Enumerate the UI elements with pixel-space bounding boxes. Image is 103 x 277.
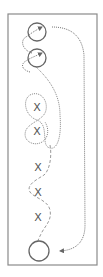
x-marker-3: X [34,161,42,174]
x-marker-1: X [33,101,41,114]
weave-path-upper [25,67,60,148]
x-marker-4: X [34,186,42,199]
drill-diagram: X X X X X [0,0,103,277]
end-circle [29,241,49,261]
x-marker-5: X [34,211,42,224]
loop-arrow-2 [23,53,42,72]
return-path [52,27,85,251]
start-circle-1 [28,23,46,41]
x-marker-2: X [33,125,41,138]
